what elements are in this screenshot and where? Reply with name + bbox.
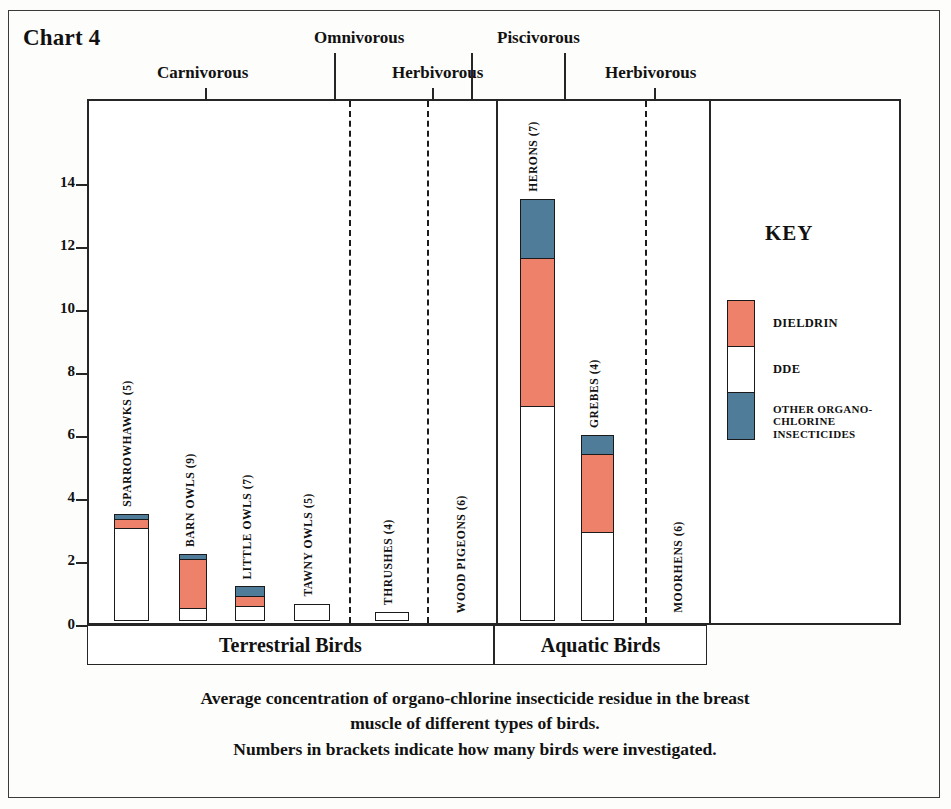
bar-segment-dde (115, 529, 148, 620)
y-tick-12 (76, 247, 89, 249)
group-box-aquatic: Aquatic Birds (494, 625, 707, 665)
caption-line-1: Average concentration of organo-chlorine… (69, 686, 881, 711)
bar-sparrowhawks[interactable] (114, 514, 149, 621)
bar-segment-dieldrin (115, 520, 148, 529)
chart-number-label: Chart 4 (23, 25, 100, 51)
bar-label-tawny-owls: TAWNY OWLS (5) (302, 493, 314, 597)
bar-herons[interactable] (520, 199, 555, 621)
key-label-dieldrin: DIELDRIN (773, 316, 838, 330)
bar-segment-dieldrin (180, 560, 206, 609)
bar-segment-other (582, 436, 613, 455)
y-tick-4 (76, 499, 89, 501)
bar-label-grebes: GREBES (4) (588, 359, 600, 428)
bar-grebes[interactable] (581, 435, 614, 621)
panel-divider-key (709, 101, 711, 623)
key-label-other: OTHER ORGANO-CHLORINEINSECTICIDES (773, 403, 883, 440)
bar-label-herons: HERONS (7) (527, 121, 539, 192)
y-tick-label-2: 2 (68, 552, 76, 569)
diet-tick-carnivorous (205, 88, 207, 99)
bar-wood-pigeons[interactable] (449, 619, 483, 621)
bar-little-owls[interactable] (235, 586, 265, 621)
bar-segment-other (521, 200, 554, 259)
dashed-divider-omnivorous (349, 101, 351, 623)
diet-tick-herbivorous-terrestrial (432, 88, 434, 99)
key-swatch-dde (728, 347, 754, 393)
diet-divider-piscivorous (564, 53, 566, 99)
bar-tawny-owls[interactable] (294, 604, 330, 621)
bar-label-little-owls: LITTLE OWLS (7) (241, 474, 253, 580)
diet-label-herbivorous-aquatic: Herbivorous (605, 63, 696, 83)
bar-segment-dde (295, 605, 329, 620)
chart-caption: Average concentration of organo-chlorine… (69, 686, 881, 762)
bar-label-sparrowhawks: SPARROWHAWKS (5) (121, 380, 133, 507)
y-axis: 14 12 10 8 6 4 2 0 (39, 99, 75, 625)
y-tick-label-10: 10 (60, 300, 75, 317)
bar-label-thrushes: THRUSHES (4) (382, 519, 394, 605)
bar-segment-dieldrin (236, 597, 264, 607)
y-tick-6 (76, 436, 89, 438)
group-box-terrestrial: Terrestrial Birds (87, 625, 494, 665)
y-tick-label-14: 14 (60, 174, 75, 191)
caption-line-3: Numbers in brackets indicate how many bi… (69, 737, 881, 762)
bar-label-barn-owls: BARN OWLS (9) (184, 453, 196, 547)
y-tick-label-4: 4 (68, 489, 76, 506)
dashed-divider-herbivorous-aquatic (645, 101, 647, 623)
y-tick-10 (76, 310, 89, 312)
key-swatch (727, 300, 755, 440)
bar-segment-dde (376, 613, 408, 620)
bar-segment-dde (180, 609, 206, 620)
key-swatch-other (728, 393, 754, 439)
key-label-dde: DDE (773, 362, 800, 376)
bar-label-wood-pigeons: WOOD PIGEONS (6) (455, 495, 467, 613)
diet-label-herbivorous-terrestrial: Herbivorous (392, 63, 483, 83)
bar-segment-dieldrin (582, 455, 613, 533)
caption-line-2: muscle of different types of birds. (69, 711, 881, 736)
bar-segment-dde (521, 407, 554, 620)
y-tick-label-12: 12 (60, 237, 75, 254)
panel-divider-aquatic (496, 101, 498, 623)
bar-segment-other (236, 587, 264, 597)
y-tick-8 (76, 373, 89, 375)
bar-segment-dieldrin (521, 259, 554, 407)
diet-label-omnivorous: Omnivorous (314, 28, 404, 48)
diet-label-piscivorous: Piscivorous (497, 28, 580, 48)
bar-barn-owls[interactable] (179, 554, 207, 621)
diet-tick-herbivorous-aquatic (654, 88, 656, 99)
y-tick-label-0: 0 (68, 616, 76, 633)
plot-area: SPARROWHAWKS (5) BARN OWLS (9) LITTLE OW… (87, 99, 901, 625)
key-swatch-dieldrin (728, 301, 754, 347)
chart-page: Chart 4 Carnivorous Omnivorous Herbivoro… (0, 0, 951, 809)
key-title: KEY (765, 221, 814, 246)
diet-label-carnivorous: Carnivorous (157, 63, 248, 83)
bar-segment-dde (582, 533, 613, 620)
y-tick-label-6: 6 (68, 426, 76, 443)
diet-divider-herbivorous-terrestrial (471, 53, 473, 99)
dashed-divider-herbivorous-terrestrial (427, 101, 429, 623)
y-tick-label-8: 8 (68, 363, 76, 380)
bar-moorhens[interactable] (667, 619, 697, 621)
bar-label-moorhens: MOORHENS (6) (672, 521, 684, 613)
y-tick-2 (76, 562, 89, 564)
bar-segment-dde (236, 607, 264, 620)
diet-divider-omnivorous (334, 53, 336, 99)
bar-thrushes[interactable] (375, 612, 409, 621)
chart-frame: Chart 4 Carnivorous Omnivorous Herbivoro… (8, 10, 940, 798)
y-tick-14 (76, 184, 89, 186)
